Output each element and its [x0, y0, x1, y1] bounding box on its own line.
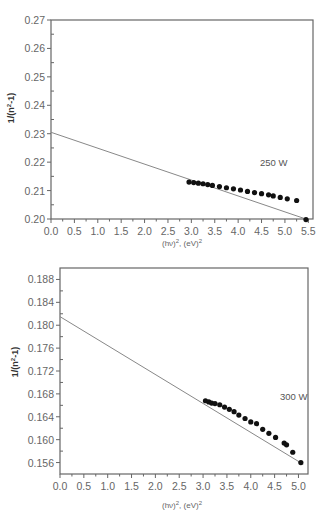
data-point [285, 196, 290, 201]
x-tick-label: 0.0 [44, 225, 59, 237]
x-tick-label: 5.5 [301, 225, 316, 237]
data-point [254, 421, 259, 426]
x-tick-label: 2.5 [161, 225, 176, 237]
chart-250w: 0.200.210.220.230.240.250.260.270.00.51.… [0, 0, 333, 250]
x-tick-label: 4.5 [267, 480, 282, 492]
data-point [248, 419, 253, 424]
fit-line [60, 317, 303, 465]
x-tick-label: 4.0 [231, 225, 246, 237]
data-point [252, 190, 257, 195]
y-tick-label: 0.168 [28, 388, 54, 400]
data-point [242, 416, 247, 421]
y-axis-label: 1/(n2-1) [10, 347, 20, 377]
y-axis-label: 1/(n2-1) [6, 93, 16, 123]
data-point [191, 180, 196, 185]
data-point [245, 189, 250, 194]
data-point [271, 193, 276, 198]
data-point [260, 427, 265, 432]
y-tick-label: 0.172 [28, 365, 54, 377]
x-tick-label: 2.0 [148, 480, 163, 492]
data-point [210, 183, 215, 188]
x-tick-label: 2.5 [172, 480, 187, 492]
data-point [266, 431, 271, 436]
series-annotation: 250 W [260, 157, 287, 168]
y-tick-label: 0.20 [25, 213, 46, 225]
plot-frame [60, 268, 308, 474]
x-tick-label: 2.0 [137, 225, 152, 237]
y-tick-label: 0.164 [28, 411, 54, 423]
series-annotation: 300 W [280, 391, 307, 402]
data-point [298, 460, 303, 465]
fit-line [51, 132, 308, 220]
data-point [303, 217, 308, 222]
y-tick-label: 0.156 [28, 457, 54, 469]
data-point [217, 402, 222, 407]
y-tick-label: 0.26 [25, 42, 46, 54]
y-tick-label: 0.176 [28, 342, 54, 354]
data-point [196, 181, 201, 186]
x-tick-label: 1.5 [114, 225, 129, 237]
data-point [231, 186, 236, 191]
chart-300w-plot: 0.1560.1600.1640.1680.1720.1760.1800.184… [0, 258, 333, 516]
x-tick-label: 0.5 [77, 480, 92, 492]
x-tick-label: 3.0 [184, 225, 199, 237]
data-point [294, 198, 299, 203]
y-tick-label: 0.160 [28, 434, 54, 446]
plot-frame [51, 20, 313, 219]
y-tick-label: 0.27 [25, 14, 46, 26]
x-tick-label: 1.0 [90, 225, 105, 237]
x-tick-label: 3.5 [207, 225, 222, 237]
data-point [217, 184, 222, 189]
data-point [222, 404, 227, 409]
data-point [186, 179, 191, 184]
y-tick-label: 0.25 [25, 71, 46, 83]
x-tick-label: 0.0 [53, 480, 68, 492]
x-tick-label: 3.5 [220, 480, 235, 492]
y-tick-label: 0.188 [28, 273, 54, 285]
x-tick-label: 0.5 [67, 225, 82, 237]
data-point [266, 192, 271, 197]
data-point [278, 195, 283, 200]
chart-250w-plot: 0.200.210.220.230.240.250.260.270.00.51.… [0, 0, 333, 250]
data-point [273, 435, 278, 440]
y-tick-label: 0.23 [25, 128, 46, 140]
x-tick-label: 5.0 [291, 480, 306, 492]
data-point [212, 401, 217, 406]
data-point [227, 407, 232, 412]
y-tick-label: 0.22 [25, 156, 46, 168]
data-point [284, 442, 289, 447]
x-tick-label: 1.5 [124, 480, 139, 492]
data-point [290, 450, 295, 455]
x-axis-label: (hν)2, (eV)2 [162, 238, 203, 248]
data-point [231, 409, 236, 414]
y-tick-label: 0.184 [28, 296, 54, 308]
x-tick-label: 1.0 [100, 480, 115, 492]
y-tick-label: 0.180 [28, 319, 54, 331]
data-point [205, 182, 210, 187]
y-tick-label: 0.21 [25, 185, 46, 197]
x-axis-label: (hν)2, (eV)2 [162, 500, 203, 510]
chart-300w: 0.1560.1600.1640.1680.1720.1760.1800.184… [0, 258, 333, 516]
data-point [236, 412, 241, 417]
data-point [200, 181, 205, 186]
x-tick-label: 4.0 [243, 480, 258, 492]
x-tick-label: 3.0 [196, 480, 211, 492]
data-point [224, 185, 229, 190]
y-tick-label: 0.24 [25, 99, 46, 111]
x-tick-label: 5.0 [278, 225, 293, 237]
x-tick-label: 4.5 [254, 225, 269, 237]
data-point [259, 191, 264, 196]
data-point [238, 187, 243, 192]
